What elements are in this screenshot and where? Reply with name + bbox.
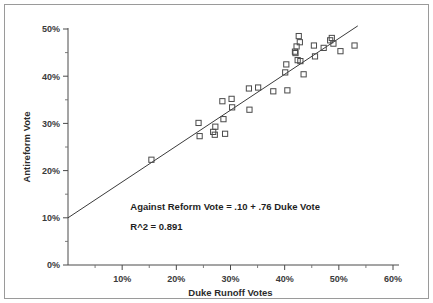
data-point-marker (197, 134, 202, 139)
x-tick-label: 40% (276, 274, 294, 284)
chart-annotation: R^2 = 0.891 (130, 221, 183, 232)
x-tick-label: 20% (167, 274, 185, 284)
chart-annotation: Against Reform Vote = .10 + .76 Duke Vot… (130, 201, 320, 212)
x-tick-label: 60% (384, 274, 402, 284)
regression-line (68, 26, 358, 218)
scatter-plot: 0%10%20%30%40%50%10%20%30%40%50%60%Again… (0, 0, 433, 303)
data-point-marker (247, 107, 252, 112)
data-point-marker (229, 96, 234, 101)
data-point-marker (301, 72, 306, 77)
data-point-marker (220, 99, 225, 104)
y-tick-label: 30% (42, 119, 60, 129)
x-axis-title: Duke Runoff Votes (188, 287, 272, 298)
data-point-marker (285, 88, 290, 93)
data-point-marker (221, 117, 226, 122)
data-point-marker (338, 49, 343, 54)
data-point-marker (256, 85, 261, 90)
data-point-marker (213, 124, 218, 129)
y-tick-label: 0% (47, 260, 60, 270)
data-point-marker (311, 43, 316, 48)
data-point-marker (284, 62, 289, 67)
chart-figure: 0%10%20%30%40%50%10%20%30%40%50%60%Again… (0, 0, 433, 303)
y-tick-label: 10% (42, 213, 60, 223)
y-tick-label: 20% (42, 166, 60, 176)
data-point-marker (271, 89, 276, 94)
data-point-marker (296, 33, 301, 38)
x-tick-label: 30% (221, 274, 239, 284)
y-tick-label: 50% (42, 24, 60, 34)
y-tick-label: 40% (42, 72, 60, 82)
data-point-marker (246, 86, 251, 91)
data-point-marker (196, 120, 201, 125)
y-axis-title: Antireform Vote (21, 111, 32, 182)
data-point-marker (222, 131, 227, 136)
x-tick-label: 10% (113, 274, 131, 284)
data-point-marker (352, 43, 357, 48)
x-tick-label: 50% (330, 274, 348, 284)
